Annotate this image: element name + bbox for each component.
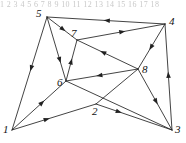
- directed-graph-canvas: [0, 0, 186, 143]
- node-label-5: 5: [36, 8, 42, 19]
- arrowhead-layer: [28, 18, 171, 122]
- arrowhead-8-3: [153, 98, 160, 106]
- arrowhead-5-1: [28, 65, 34, 72]
- arrowhead-7-4: [119, 29, 126, 35]
- graph-edge-1-6: [12, 81, 66, 130]
- node-label-4: 4: [169, 16, 175, 27]
- graph-edge-5-1: [12, 17, 47, 130]
- node-label-8: 8: [142, 64, 148, 75]
- arrowhead-3-4: [166, 72, 171, 78]
- graph-edge-5-6: [47, 17, 66, 81]
- node-label-7: 7: [71, 28, 77, 39]
- node-label-1: 1: [3, 124, 9, 135]
- graph-edge-1-2: [12, 104, 96, 130]
- arrowhead-2-3: [115, 109, 122, 115]
- figure-root: 1 2 3 4 5 6 7 8 9 10 11 12 13 14 15 16 1…: [0, 0, 186, 143]
- arrowhead-5-6: [57, 56, 63, 63]
- arrowhead-1-2: [43, 116, 50, 122]
- arrowhead-4-5: [104, 18, 110, 23]
- arrowhead-4-8: [147, 44, 154, 52]
- graph-edge-2-3: [96, 104, 172, 130]
- graph-edge-8-7: [77, 40, 138, 69]
- graph-edge-6-3: [66, 81, 172, 130]
- node-label-2: 2: [92, 106, 98, 117]
- node-label-6: 6: [57, 77, 63, 88]
- graph-edge-2-8: [96, 69, 138, 104]
- arrowhead-8-7: [99, 49, 107, 56]
- node-label-3: 3: [175, 124, 181, 135]
- arrowhead-6-7: [68, 58, 74, 65]
